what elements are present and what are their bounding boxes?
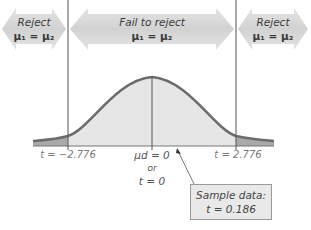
right-critical-value: t = 2.776 [200, 149, 276, 160]
left-critical-value: t = −2.776 [30, 149, 106, 160]
reject-right-label: Reject μ₁ = μ₂ [238, 15, 308, 43]
reject-left-label: Reject μ₁ = μ₂ [2, 15, 66, 43]
sample-data-callout: Sample data: t = 0.186 [190, 184, 272, 220]
hypothesis-test-diagram: Reject μ₁ = μ₂ Fail to reject μ₁ = μ₂ Re… [0, 0, 311, 230]
fail-to-reject-label: Fail to reject μ₁ = μ₂ [70, 15, 234, 43]
center-value-label: μd = 0 or t = 0 [122, 149, 182, 188]
